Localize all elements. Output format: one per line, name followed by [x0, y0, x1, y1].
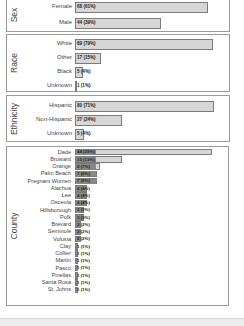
value-label: 80 (71%): [77, 103, 96, 108]
value-label: 1 (1%): [77, 83, 91, 88]
value-label: 3 (3%): [77, 215, 90, 220]
value-label: 4 (4%): [77, 200, 90, 205]
category-label: White: [57, 40, 72, 46]
value-label: 1 (1%): [77, 287, 90, 292]
value-label: 5 (4%): [77, 131, 91, 136]
category-label: Non-Hispanic: [36, 116, 72, 122]
value-label: 4 (4%): [77, 193, 90, 198]
value-label: 4 (4%): [77, 186, 90, 191]
footer-band: [0, 318, 244, 326]
category-label: Santa Rosa: [42, 279, 71, 285]
category-label: Palm Beach: [41, 170, 71, 176]
value-label: 7 (6%): [77, 171, 90, 176]
value-label: 2 (2%): [77, 222, 90, 227]
category-label: Brevard: [51, 221, 71, 227]
sex-panel: Sex Female68 (61%)Male44 (39%): [6, 0, 230, 32]
panel-title: Sex: [7, 0, 21, 31]
race-panel: Race White89 (79%)Other17 (15%)Black5 (4…: [6, 34, 230, 92]
category-label: Alachua: [51, 185, 71, 191]
category-label: Pasco: [55, 265, 71, 271]
ethnicity-title: Ethnicity: [9, 102, 19, 134]
race-title: Race: [9, 53, 19, 73]
value-label: 15 (13%): [77, 157, 95, 162]
category-label: Volusia: [53, 236, 71, 242]
category-label: Polk: [60, 214, 71, 220]
value-label: 2 (2%): [77, 236, 90, 241]
panel-title: Ethnicity: [7, 96, 21, 141]
value-label: 44 (39%): [77, 20, 96, 25]
category-label: Other: [57, 54, 72, 60]
panel-title: Race: [7, 35, 21, 91]
category-label: Pregnant Women: [28, 178, 71, 184]
value-label: 1 (1%): [77, 280, 90, 285]
category-label: Lee: [62, 192, 71, 198]
value-label: 1 (1%): [77, 258, 90, 263]
category-label: Female: [52, 3, 72, 9]
value-label: 1 (1%): [77, 273, 90, 278]
county-title: County: [9, 213, 19, 240]
sex-title: Sex: [9, 8, 19, 23]
value-label: 3 (3%): [77, 207, 90, 212]
value-label: 1 (1%): [77, 265, 90, 270]
value-label: 1 (1%): [77, 244, 90, 249]
value-label: 2 (2%): [77, 229, 90, 234]
category-label: Hillsborough: [40, 207, 71, 213]
category-label: St. Johns: [48, 286, 71, 292]
value-label: 8 (7%): [77, 164, 90, 169]
category-label: Osceola: [50, 199, 71, 205]
county-panel: County Dade44 (39%)Broward15 (13%)Orange…: [6, 146, 229, 306]
category-label: Male: [59, 19, 72, 25]
value-label: 5 (4%): [77, 69, 91, 74]
category-label: Unknown: [47, 82, 72, 88]
panel-title: County: [7, 147, 21, 305]
value-label: 44 (39%): [77, 149, 95, 154]
value-label: 1 (1%): [77, 251, 90, 256]
category-label: Dade: [58, 149, 71, 155]
category-label: Orange: [52, 163, 71, 169]
category-label: Martin: [55, 257, 71, 263]
category-label: Hispanic: [49, 102, 72, 108]
category-label: Pinellas: [51, 272, 71, 278]
ethnicity-panel: Ethnicity Hispanic80 (71%)Non-Hispanic27…: [6, 95, 230, 142]
value-label: 68 (61%): [77, 4, 96, 9]
category-label: Broward: [50, 156, 71, 162]
value-label: 17 (15%): [77, 55, 96, 60]
value-label: 7 (6%): [77, 178, 90, 183]
category-label: Black: [57, 68, 72, 74]
category-label: Clay: [60, 243, 71, 249]
value-label: 27 (24%): [77, 117, 96, 122]
value-label: 89 (79%): [77, 41, 96, 46]
category-label: Collier: [55, 250, 71, 256]
category-label: Unknown: [47, 130, 72, 136]
category-label: Seminole: [48, 228, 71, 234]
